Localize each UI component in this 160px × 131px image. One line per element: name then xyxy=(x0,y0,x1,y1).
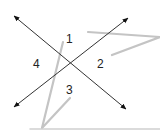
angle-label-4: 4 xyxy=(33,57,40,71)
angle-label-2: 2 xyxy=(97,57,104,71)
scribble-long-stroke xyxy=(42,42,63,128)
angle-label-1: 1 xyxy=(66,32,73,46)
scribble-strokes xyxy=(30,32,160,129)
angle-diagram: 1 2 3 4 xyxy=(0,0,160,131)
angle-label-3: 3 xyxy=(66,83,73,97)
scribble-zigzag xyxy=(88,32,160,55)
